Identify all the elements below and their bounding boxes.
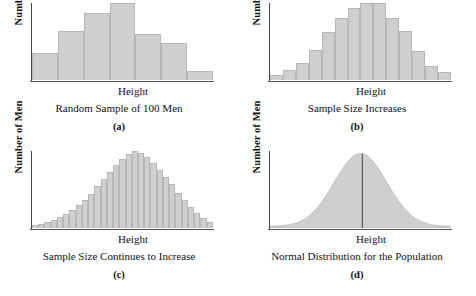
panel-b-title: Sample Size Increases (238, 101, 476, 116)
bar (425, 66, 438, 80)
bar (360, 3, 373, 80)
panel-d-y-axis-label: Number of Men (246, 94, 268, 180)
panel-d-x-axis-label: Height (238, 232, 476, 246)
panel-d-captions: Height Normal Distribution for the Popul… (238, 232, 476, 280)
panel-c-bars (32, 151, 213, 228)
bar (110, 3, 136, 80)
panel-c-x-axis-label: Height (0, 232, 238, 246)
bar (373, 3, 386, 80)
panel-c-plot-area (31, 151, 213, 229)
panel-c-x-axis-line (30, 229, 214, 230)
panel-b-captions: Height Sample Size Increases (b) (238, 84, 476, 132)
panel-b-bars (270, 3, 451, 80)
bar (207, 222, 213, 228)
bar (84, 13, 110, 80)
panel-a-y-axis-label: Number of Men (8, 0, 30, 32)
bar (135, 34, 161, 80)
panel-d-title: Normal Distribution for the Population (238, 249, 476, 264)
bar (335, 18, 348, 80)
bar (399, 31, 412, 80)
panel-d-letter: (d) (238, 269, 476, 280)
bar (296, 63, 309, 80)
panel-a-plot-area (31, 3, 213, 81)
panel-b-x-axis-label: Height (238, 84, 476, 98)
panel-b: Number of Men Height Sample Size Increas… (238, 0, 476, 148)
bar (348, 8, 361, 80)
bar (187, 71, 213, 80)
panel-d-normal-curve (270, 151, 451, 228)
panel-a-captions: Height Random Sample of 100 Men (a) (0, 84, 238, 132)
panel-b-y-axis-label: Number of Men (246, 0, 268, 32)
bar (322, 32, 335, 80)
bar (386, 18, 399, 80)
bar (412, 51, 425, 80)
panel-a-letter: (a) (0, 121, 238, 132)
panel-a-x-axis-label: Height (0, 84, 238, 98)
panel-a-bars (32, 3, 213, 80)
bar (438, 72, 451, 80)
bar (270, 75, 283, 80)
panel-a-title: Random Sample of 100 Men (0, 101, 238, 116)
panel-b-letter: (b) (238, 121, 476, 132)
panel-c-captions: Height Sample Size Continues to Increase… (0, 232, 238, 280)
panel-c-y-axis-label: Number of Men (8, 94, 30, 180)
panel-c: Number of Men Height Sample Size Continu… (0, 148, 238, 296)
bar (32, 53, 58, 80)
panel-d-x-axis-line (268, 229, 452, 230)
panel-d: Number of Men Height Normal Distribution… (238, 148, 476, 296)
panel-d-plot-area (269, 151, 451, 229)
bar (161, 43, 187, 80)
normal-curve-area (270, 154, 451, 229)
panel-b-x-axis-line (268, 81, 452, 82)
panel-a: Number of Men Height Random Sample of 10… (0, 0, 238, 148)
panel-c-title: Sample Size Continues to Increase (0, 249, 238, 264)
bar (283, 70, 296, 80)
panel-a-x-axis-line (30, 81, 214, 82)
bar (58, 31, 84, 80)
bar (309, 50, 322, 80)
panel-c-letter: (c) (0, 269, 238, 280)
panel-b-plot-area (269, 3, 451, 81)
figure-histogram-to-normal-curve: Number of Men Height Random Sample of 10… (0, 0, 476, 296)
